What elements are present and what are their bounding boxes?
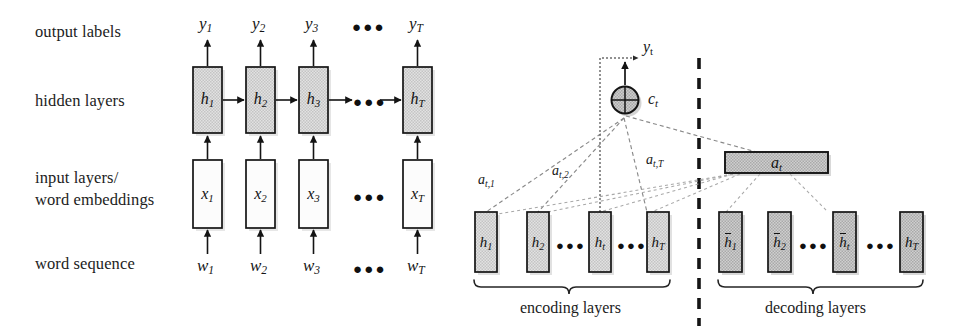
context-sum-node (612, 87, 642, 117)
decoder-state-label-h1: h1 (719, 234, 742, 251)
decoder-state-label-h2: h2 (768, 234, 791, 251)
decoder-feedback-path (600, 58, 638, 212)
caption-encoding-layers: encoding layers (520, 299, 621, 317)
encoder-state-label-hT: hT (647, 234, 669, 251)
decoder-ellipsis-1: ●●● (799, 239, 829, 252)
attention-vector-lines (486, 174, 828, 216)
attention-weight-label-a-t-2: at,2 (552, 163, 569, 179)
attention-line-a-t-2 (538, 118, 624, 212)
decoding-layers-brace (718, 280, 923, 294)
figure-root: output labels hidden layers input layers… (0, 0, 961, 336)
decoder-state-label-ht: ht (833, 234, 856, 251)
context-to-attention-line (626, 116, 760, 153)
encoder-state-label-h1: h1 (475, 234, 497, 251)
attention-weight-label-a-t-1: at,1 (478, 172, 495, 188)
attention-weight-label-a-t-T: at,T (646, 152, 663, 168)
caption-decoding-layers: decoding layers (765, 299, 866, 317)
attention-line-a-t-T (624, 118, 647, 212)
decoder-ellipsis-2: ●●● (866, 239, 896, 252)
attention-vector-label-at: at (725, 154, 828, 172)
decoder-output-label-yt: yt (643, 38, 653, 56)
encoder-state-label-ht: ht (589, 234, 611, 251)
decoder-state-label-hT: hT (900, 234, 923, 251)
encoder-ellipsis-1: ●●● (556, 239, 586, 252)
encoder-ellipsis-2: ●●● (617, 239, 647, 252)
encoder-state-label-h2: h2 (527, 234, 549, 251)
encoding-layers-brace (474, 280, 670, 294)
context-vector-label-ct: ct (648, 90, 658, 108)
